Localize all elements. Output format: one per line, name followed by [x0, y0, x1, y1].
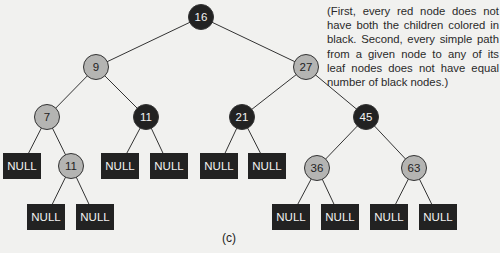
tree-node-7: 7	[35, 105, 60, 130]
node-label: NULL	[105, 160, 135, 172]
tree-node-16: 16	[189, 5, 214, 30]
node-label: 45	[360, 111, 373, 123]
node-label: NULL	[204, 160, 234, 172]
null-leaf-node: NULL	[150, 153, 188, 179]
node-label: 27	[300, 61, 313, 73]
node-label: NULL	[423, 211, 453, 223]
null-leaf-node: NULL	[321, 204, 359, 230]
node-label: 21	[236, 111, 249, 123]
null-leaf-node: NULL	[27, 204, 65, 230]
figure-label: (c)	[222, 231, 236, 245]
null-leaf-node: NULL	[101, 153, 139, 179]
tree-node-45: 45	[354, 105, 379, 130]
tree-node-21: 21	[230, 105, 255, 130]
node-label: NULL	[31, 211, 61, 223]
tree-node-9: 9	[84, 55, 109, 80]
node-label: NULL	[276, 211, 306, 223]
node-label: NULL	[252, 160, 282, 172]
node-label: NULL	[154, 160, 184, 172]
tree-node-63: 63	[402, 156, 427, 181]
node-label: 11	[140, 111, 152, 123]
null-leaf-node: NULL	[272, 204, 310, 230]
node-label: 7	[44, 111, 50, 123]
null-leaf-node: NULL	[3, 153, 41, 179]
tree-node-27: 27	[294, 55, 319, 80]
null-leaf-node: NULL	[76, 204, 114, 230]
node-label: 11	[65, 160, 77, 172]
node-label: 9	[93, 61, 99, 73]
tree-node-11: 11	[59, 154, 84, 179]
null-leaf-node: NULL	[248, 153, 286, 179]
node-label: NULL	[7, 160, 37, 172]
tree-node-36: 36	[305, 156, 330, 181]
null-leaf-node: NULL	[370, 204, 408, 230]
caption-text: (First, every red node does not have bot…	[327, 4, 499, 89]
node-label: NULL	[374, 211, 404, 223]
node-label: NULL	[80, 211, 110, 223]
tree-node-11: 11	[134, 105, 159, 130]
null-leaf-node: NULL	[200, 153, 238, 179]
node-label: NULL	[325, 211, 355, 223]
null-leaf-node: NULL	[419, 204, 457, 230]
tree-edge	[96, 17, 201, 67]
tree-edge	[201, 17, 306, 67]
node-label: 63	[408, 162, 421, 174]
node-label: 36	[311, 162, 324, 174]
node-label: 16	[195, 11, 208, 23]
